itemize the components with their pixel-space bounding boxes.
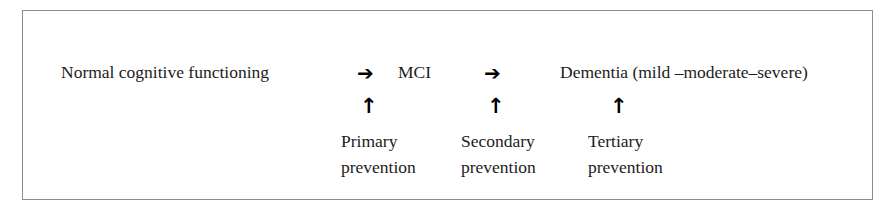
- stage-label-mci: MCI: [398, 64, 431, 82]
- arrow-up-icon-primary-prevention: ↑: [360, 96, 378, 117]
- prevention-label-secondary-line2: prevention: [461, 154, 536, 180]
- arrow-right-icon-mci-to-dementia: ➔: [484, 63, 501, 83]
- prevention-label-tertiary-line2: prevention: [588, 154, 663, 180]
- figure-frame: Normal cognitive functioning ➔ MCI ➔ Dem…: [22, 10, 873, 200]
- prevention-label-primary-line1: Primary: [341, 128, 416, 154]
- stage-label-dementia: Dementia (mild –moderate–severe): [560, 64, 808, 82]
- prevention-label-primary-line2: prevention: [341, 154, 416, 180]
- prevention-label-tertiary-line1: Tertiary: [588, 128, 663, 154]
- prevention-label-secondary: Secondary prevention: [461, 128, 536, 180]
- prevention-label-primary: Primary prevention: [341, 128, 416, 180]
- arrow-right-icon-normal-to-mci: ➔: [357, 63, 374, 83]
- arrow-up-icon-tertiary-prevention: ↑: [610, 96, 628, 117]
- prevention-label-secondary-line1: Secondary: [461, 128, 536, 154]
- arrow-up-icon-secondary-prevention: ↑: [487, 96, 505, 117]
- prevention-label-tertiary: Tertiary prevention: [588, 128, 663, 180]
- stage-label-normal-cognitive-functioning: Normal cognitive functioning: [61, 64, 269, 82]
